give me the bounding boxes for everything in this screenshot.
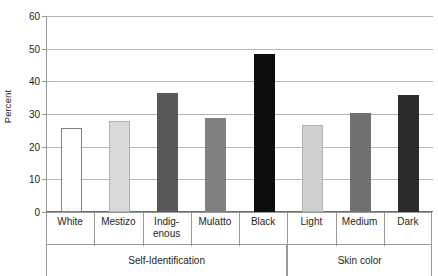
y-tick-label-40: 40 bbox=[29, 76, 40, 87]
bar-dark bbox=[398, 95, 419, 212]
category-cell-divider bbox=[384, 213, 385, 246]
category-cell-divider bbox=[336, 213, 337, 246]
category-label-medium: Medium bbox=[336, 213, 384, 246]
y-axis-title: Percent bbox=[0, 0, 16, 212]
group-row: Self-IdentificationSkin color bbox=[46, 245, 432, 276]
category-label-white: White bbox=[46, 213, 94, 246]
y-tick-label-10: 10 bbox=[29, 174, 40, 185]
category-cell-divider bbox=[94, 213, 95, 246]
y-tick-mark-30 bbox=[42, 114, 47, 115]
category-label-table: WhiteMestizoIndig-enousMulattoBlackLight… bbox=[46, 212, 432, 276]
gridline-10 bbox=[47, 179, 433, 180]
gridline-40 bbox=[47, 81, 433, 82]
category-cell-divider bbox=[287, 213, 288, 246]
category-label-dark: Dark bbox=[384, 213, 432, 246]
group-label-self-identification: Self-Identification bbox=[46, 245, 287, 276]
bar-white bbox=[61, 128, 82, 212]
y-tick-label-30: 30 bbox=[29, 109, 40, 120]
category-row-edge bbox=[431, 213, 432, 246]
bar-black bbox=[254, 54, 275, 212]
group-cell-divider bbox=[46, 245, 47, 276]
y-tick-label-20: 20 bbox=[29, 141, 40, 152]
bar-medium bbox=[350, 113, 371, 212]
category-label-mulatto: Mulatto bbox=[191, 213, 239, 246]
y-tick-mark-60 bbox=[42, 16, 47, 17]
gridline-30 bbox=[47, 114, 433, 115]
y-axis-title-label: Percent bbox=[3, 89, 14, 122]
y-tick-mark-20 bbox=[42, 147, 47, 148]
group-cell-divider bbox=[431, 245, 432, 276]
category-label-black: Black bbox=[239, 213, 287, 246]
category-cell-divider bbox=[191, 213, 192, 246]
category-cell-divider bbox=[239, 213, 240, 246]
y-tick-mark-40 bbox=[42, 81, 47, 82]
group-label-skin-color: Skin color bbox=[287, 245, 432, 276]
category-label-mestizo: Mestizo bbox=[94, 213, 142, 246]
bar-indig-enous bbox=[157, 93, 178, 212]
y-tick-mark-10 bbox=[42, 179, 47, 180]
category-row-edge bbox=[46, 213, 47, 246]
gridline-60 bbox=[47, 16, 433, 17]
category-label-indig-enous: Indig-enous bbox=[143, 213, 191, 246]
bar-mulatto bbox=[205, 118, 226, 212]
y-tick-label-60: 60 bbox=[29, 11, 40, 22]
y-axis-tick-labels: 0102030405060 bbox=[16, 0, 44, 218]
category-label-light: Light bbox=[287, 213, 335, 246]
y-tick-label-0: 0 bbox=[34, 207, 40, 218]
gridline-50 bbox=[47, 49, 433, 50]
bar-light bbox=[302, 125, 323, 212]
category-cell-divider bbox=[143, 213, 144, 246]
gridline-20 bbox=[47, 147, 433, 148]
y-tick-mark-50 bbox=[42, 49, 47, 50]
bar-chart: Percent 0102030405060 WhiteMestizoIndig-… bbox=[0, 0, 438, 276]
plot-area bbox=[46, 16, 432, 212]
group-cell-divider bbox=[287, 245, 288, 276]
bar-mestizo bbox=[109, 121, 130, 212]
category-row: WhiteMestizoIndig-enousMulattoBlackLight… bbox=[46, 212, 432, 245]
y-tick-label-50: 50 bbox=[29, 43, 40, 54]
